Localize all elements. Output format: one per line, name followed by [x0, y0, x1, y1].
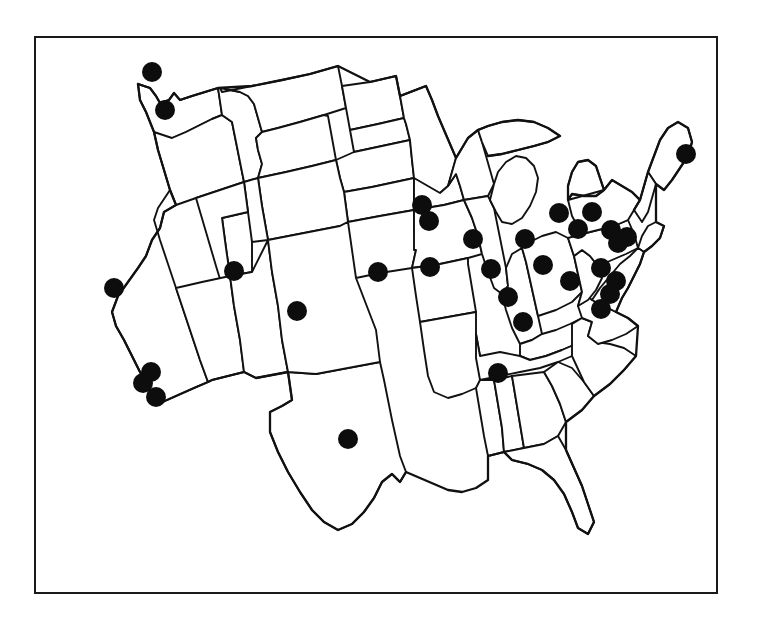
- caption-layer: Map of the contiguous United States with…: [0, 0, 761, 620]
- figure-root: Seattle WAPortland ORSan Francisco CALos…: [0, 0, 761, 620]
- figure-description: Black-and-white line map of the 48 conti…: [0, 0, 1, 1]
- figure-title: Map of the contiguous United States with…: [0, 0, 1, 1]
- marker-count: 32: [0, 0, 1, 1]
